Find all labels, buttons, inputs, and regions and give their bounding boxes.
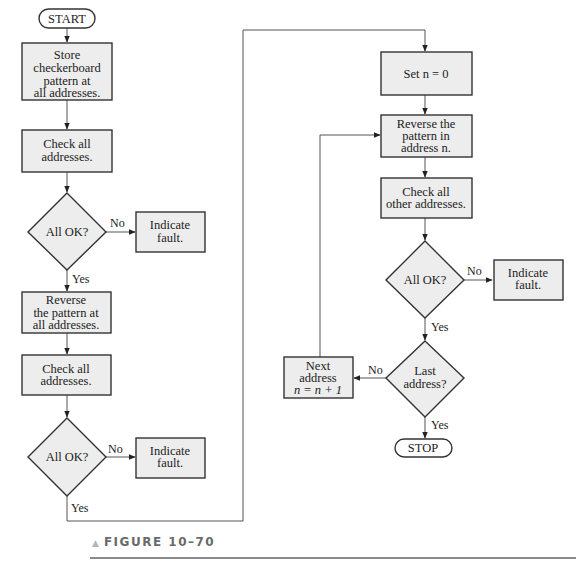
svg-text:All OK?: All OK? bbox=[46, 450, 89, 464]
no-label-3: No bbox=[467, 264, 482, 278]
flowchart: START Store checkerboard pattern at all … bbox=[0, 0, 579, 563]
svg-text:Reverse: Reverse bbox=[46, 293, 87, 307]
svg-text:address?: address? bbox=[403, 377, 446, 391]
arrow-loop-to-reverse bbox=[320, 135, 380, 357]
check-other-addresses-box: Check all other addresses. bbox=[381, 178, 472, 218]
svg-text:other addresses.: other addresses. bbox=[386, 197, 466, 211]
svg-text:addresses.: addresses. bbox=[41, 150, 92, 164]
last-address-decision: Last address? bbox=[386, 341, 464, 417]
start-terminal: START bbox=[39, 9, 95, 28]
svg-text:All OK?: All OK? bbox=[46, 225, 89, 239]
svg-text:Set n = 0: Set n = 0 bbox=[404, 67, 449, 81]
yes-label-1: Yes bbox=[72, 272, 90, 286]
triangle-icon: ▲ bbox=[92, 538, 99, 548]
yes-label-3: Yes bbox=[431, 320, 449, 334]
svg-text:Last: Last bbox=[414, 364, 436, 378]
no-label-2: No bbox=[108, 442, 123, 456]
figure-caption-text: FIGURE 10–70 bbox=[104, 535, 215, 549]
set-n-box: Set n = 0 bbox=[381, 52, 472, 95]
stop-terminal: STOP bbox=[395, 439, 452, 457]
all-ok-decision-2: All OK? bbox=[28, 418, 106, 496]
no-label-4: No bbox=[368, 363, 383, 377]
svg-text:Store: Store bbox=[54, 48, 81, 62]
reverse-all-box: Reverse the pattern at all addresses. bbox=[22, 292, 111, 333]
figure-caption: ▲FIGURE 10–70 bbox=[92, 535, 215, 549]
svg-text:Check all: Check all bbox=[43, 137, 91, 151]
svg-text:All OK?: All OK? bbox=[404, 273, 447, 287]
indicate-fault-box-2: Indicate fault. bbox=[136, 438, 205, 478]
svg-text:all addresses.: all addresses. bbox=[34, 86, 101, 100]
svg-text:addresses.: addresses. bbox=[40, 374, 91, 388]
all-ok-decision-3: All OK? bbox=[386, 241, 464, 318]
check-all-box-2: Check all addresses. bbox=[22, 355, 111, 395]
indicate-fault-box-3: Indicate fault. bbox=[494, 260, 563, 300]
svg-text:n = n + 1: n = n + 1 bbox=[294, 383, 342, 397]
svg-text:fault.: fault. bbox=[157, 456, 183, 470]
caption-divider bbox=[90, 557, 576, 559]
svg-text:START: START bbox=[48, 12, 86, 26]
store-pattern-box: Store checkerboard pattern at all addres… bbox=[22, 43, 112, 100]
svg-text:checkerboard: checkerboard bbox=[33, 61, 101, 75]
reverse-address-n-box: Reverse the pattern in address n. bbox=[381, 115, 472, 157]
svg-text:Indicate: Indicate bbox=[150, 218, 191, 232]
svg-text:all addresses.: all addresses. bbox=[33, 318, 100, 332]
svg-text:fault.: fault. bbox=[515, 278, 541, 292]
svg-text:address n.: address n. bbox=[401, 141, 451, 155]
all-ok-decision-1: All OK? bbox=[28, 193, 106, 270]
svg-text:STOP: STOP bbox=[408, 441, 438, 455]
yes-label-2: Yes bbox=[71, 501, 89, 515]
next-address-box: Next address n = n + 1 bbox=[284, 357, 353, 398]
check-all-box-1: Check all addresses. bbox=[22, 130, 112, 172]
yes-label-4: Yes bbox=[431, 418, 449, 432]
indicate-fault-box-1: Indicate fault. bbox=[136, 212, 205, 252]
svg-text:fault.: fault. bbox=[157, 231, 183, 245]
no-label-1: No bbox=[110, 216, 125, 230]
